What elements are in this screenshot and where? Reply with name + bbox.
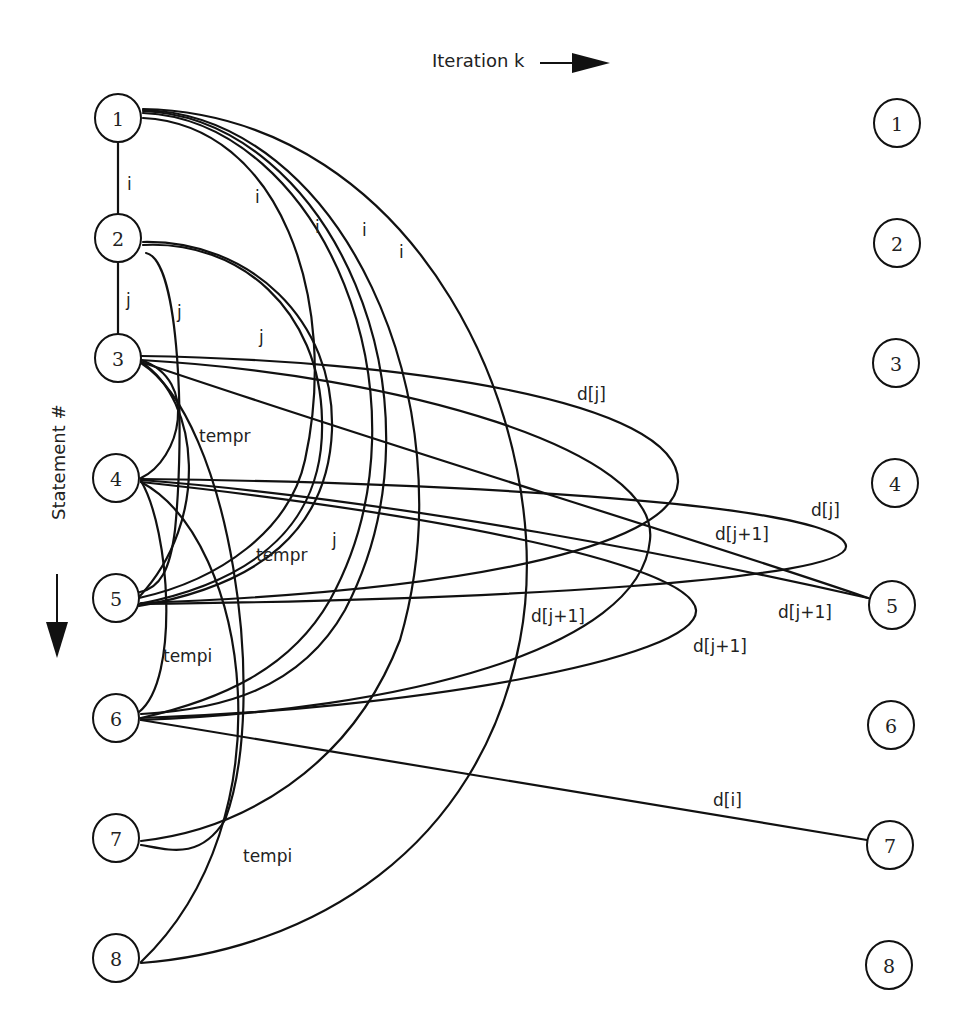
node-label: 4 (889, 473, 901, 495)
edge-label: d[j+1] (715, 524, 769, 544)
edge-label: i (399, 242, 404, 262)
dependence-graph: Iteration k Statement # iiiiijjjtemprtem… (0, 0, 964, 1035)
edge-label: i (127, 174, 132, 194)
left-node-4: 4 (93, 454, 139, 502)
edge-labels-layer: iiiiijjjtemprtemprjtempitempid[j]d[j]d[j… (125, 174, 840, 866)
edge-label: d[j+1] (531, 606, 585, 626)
node-label: 6 (885, 715, 897, 737)
right-node-2: 2 (874, 219, 920, 267)
edge-l3-r4loop2 (141, 360, 650, 720)
y-axis-label: Statement # (48, 404, 69, 520)
right-node-6: 6 (868, 701, 914, 749)
nodes-layer: 1234567812345678 (93, 94, 920, 989)
right-node-8: 8 (866, 941, 912, 989)
node-label: 4 (110, 468, 122, 490)
node-label: 8 (110, 948, 122, 970)
edge-label: tempr (199, 426, 250, 446)
node-label: 5 (886, 595, 898, 617)
edge-label: tempr (256, 545, 307, 565)
node-label: 2 (891, 233, 903, 255)
left-node-6: 6 (93, 694, 139, 742)
node-label: 1 (112, 108, 124, 130)
edge-label: i (315, 217, 320, 237)
edge-label: j (125, 290, 131, 310)
left-node-1: 1 (95, 94, 141, 142)
edge-label: d[i] (713, 790, 742, 810)
edge-l6-r7 (141, 720, 867, 840)
edge-label: d[j+1] (693, 636, 747, 656)
left-node-3: 3 (95, 334, 141, 382)
left-node-5: 5 (93, 574, 139, 622)
node-label: 7 (110, 828, 122, 850)
right-node-5: 5 (869, 581, 915, 629)
left-node-8: 8 (93, 934, 139, 982)
edge-label: i (362, 220, 367, 240)
edge-label: i (255, 187, 260, 207)
right-node-1: 1 (874, 99, 920, 147)
edge-label: d[j] (811, 500, 840, 520)
right-node-4: 4 (872, 459, 918, 507)
edge-label: tempi (243, 846, 292, 866)
node-label: 6 (110, 708, 122, 730)
edge-l1-l7 (141, 110, 419, 841)
edge-label: tempi (163, 646, 212, 666)
edge-label: d[j+1] (778, 602, 832, 622)
edge-label: j (176, 302, 182, 322)
edge-label: j (331, 530, 337, 550)
edge-label: d[j] (577, 384, 606, 404)
node-label: 8 (883, 955, 895, 977)
edge-label: j (258, 327, 264, 347)
right-node-7: 7 (867, 821, 913, 869)
arrow-down-icon (46, 574, 68, 658)
node-label: 3 (112, 348, 124, 370)
node-label: 3 (890, 353, 902, 375)
node-label: 7 (884, 835, 896, 857)
node-label: 2 (112, 228, 124, 250)
node-label: 1 (891, 113, 903, 135)
left-node-2: 2 (95, 214, 141, 262)
left-node-7: 7 (93, 814, 139, 862)
x-axis-label: Iteration k (432, 50, 525, 71)
right-node-3: 3 (873, 339, 919, 387)
arrow-right-icon (540, 53, 610, 73)
node-label: 5 (110, 588, 122, 610)
